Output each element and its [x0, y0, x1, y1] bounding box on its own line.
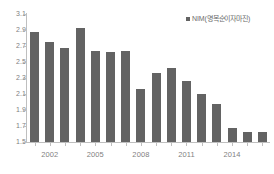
- bar-2010: [167, 68, 176, 142]
- x-axis-tick-mark: [50, 143, 51, 146]
- x-axis-tick-label: 2002: [30, 150, 70, 160]
- x-axis-tick-mark: [186, 143, 187, 146]
- bar-2006: [106, 52, 115, 142]
- bar-2007: [121, 51, 130, 142]
- legend-swatch-nim: [186, 17, 190, 21]
- x-axis-tick-label: 2014: [212, 150, 252, 160]
- x-axis-tick-mark: [65, 143, 66, 146]
- bar-2009: [152, 73, 161, 142]
- x-axis-tick-mark: [80, 143, 81, 146]
- bar-2005: [91, 51, 100, 142]
- legend-label-nim: NIM(명목순이자마진): [192, 15, 250, 23]
- bar-2016: [258, 132, 267, 142]
- x-axis-tick-mark: [141, 143, 142, 146]
- bar-2004: [76, 28, 85, 142]
- x-axis-tick-label: 2008: [121, 150, 161, 160]
- x-axis-tick-mark: [35, 143, 36, 146]
- x-axis-tick-mark: [232, 143, 233, 146]
- bar-2001: [30, 32, 39, 142]
- bar-2011: [182, 81, 191, 142]
- x-axis-tick-mark: [171, 143, 172, 146]
- x-axis-tick-mark: [247, 143, 248, 146]
- plot-area: [27, 14, 270, 142]
- x-axis-tick-mark: [95, 143, 96, 146]
- y-axis-tick-mark: [23, 142, 27, 143]
- x-axis-tick-mark: [126, 143, 127, 146]
- bar-2013: [212, 104, 221, 142]
- x-axis-tick-label: 2005: [75, 150, 115, 160]
- bar-2002: [45, 42, 54, 142]
- x-axis-tick-label: 2011: [166, 150, 206, 160]
- x-axis-tick-mark: [262, 143, 263, 146]
- x-axis-tick-mark: [156, 143, 157, 146]
- bar-2003: [60, 48, 69, 142]
- bar-2014: [228, 128, 237, 142]
- bar-2015: [243, 132, 252, 142]
- bar-2012: [197, 94, 206, 142]
- x-axis-tick-mark: [202, 143, 203, 146]
- chart-legend: NIM(명목순이자마진): [186, 15, 250, 23]
- bar-2008: [136, 89, 145, 142]
- bar-chart: 3.12.92.72.52.32.11.91.71.5 200220052008…: [0, 0, 274, 174]
- x-axis-line: [26, 142, 270, 143]
- x-axis-tick-mark: [111, 143, 112, 146]
- x-axis-tick-mark: [217, 143, 218, 146]
